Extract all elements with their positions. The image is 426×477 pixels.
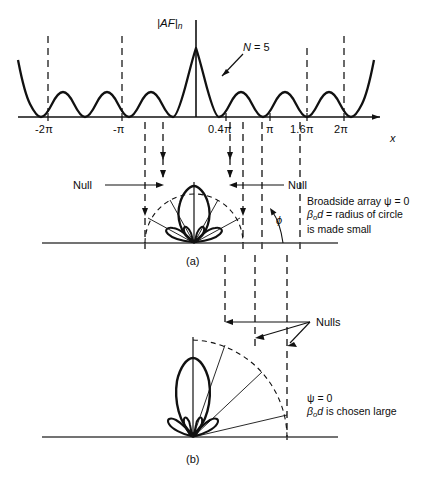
panel-b-note-line1: ψ = 0 bbox=[307, 392, 397, 405]
tick-label-0p4pi: 0.4π bbox=[208, 122, 232, 136]
down-arrow-4 bbox=[240, 208, 246, 216]
panel-a-null-leader-right bbox=[229, 182, 284, 188]
panel-a-note-line1: Broadside array ψ = 0 bbox=[307, 195, 409, 208]
panel-b-caption: (b) bbox=[186, 452, 199, 466]
tick-label-pi: π bbox=[266, 122, 274, 136]
down-arrow-2 bbox=[227, 170, 233, 178]
y-axis-label-main: |AF| bbox=[157, 17, 178, 29]
panel-a-note-line2: βodd = radius of circle = radius of circ… bbox=[307, 208, 409, 223]
panel-a-caption: (a) bbox=[186, 254, 199, 268]
panel-b-note-line2: βodd is chosen large is chosen large bbox=[307, 405, 397, 420]
tick-label-minus-2pi: -2π bbox=[35, 122, 53, 136]
x-axis-label: x bbox=[390, 131, 396, 145]
nulls-label: Nulls bbox=[316, 315, 340, 329]
tick-label-2pi: 2π bbox=[334, 122, 348, 136]
y-axis-label: |AF|n bbox=[157, 16, 182, 32]
panel-b-nulls-leaders bbox=[225, 319, 310, 347]
top-plot bbox=[18, 20, 380, 121]
phi-angle-label: ϕ bbox=[276, 213, 282, 227]
panel-b bbox=[42, 319, 338, 437]
panel-b-note: ψ = 0 βodd is chosen large is chosen lar… bbox=[307, 392, 397, 420]
down-arrow-5 bbox=[160, 152, 166, 160]
panel-b-null-rays bbox=[193, 345, 287, 437]
null-label-right: Null bbox=[288, 178, 307, 192]
tick-label-minus-pi: -π bbox=[113, 122, 125, 136]
curve-label-n5: NN = 5 = 5 bbox=[243, 40, 270, 54]
n-label-leader bbox=[222, 54, 243, 76]
null-label-left: Null bbox=[73, 178, 92, 192]
down-arrow-6 bbox=[227, 152, 233, 160]
y-axis-label-sub: n bbox=[178, 21, 183, 31]
panel-a-note-line3: is made small bbox=[307, 223, 409, 236]
down-arrow-3 bbox=[142, 208, 148, 216]
panel-a-note: Broadside array ψ = 0 βodd = radius of c… bbox=[307, 195, 409, 237]
panel-b-side-lobe-left bbox=[168, 419, 191, 436]
tick-label-1p6pi: 1.6π bbox=[290, 122, 314, 136]
dashed-guides-panel-b bbox=[225, 255, 287, 440]
down-arrow-1 bbox=[160, 170, 166, 178]
panel-a-null-leader-left bbox=[105, 182, 164, 188]
x-axis-arrow bbox=[372, 114, 380, 119]
